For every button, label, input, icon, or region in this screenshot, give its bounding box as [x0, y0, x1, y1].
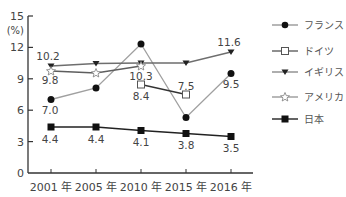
legend-label: フランス — [304, 20, 344, 31]
x-tick-2015: 2015 年 — [165, 180, 208, 194]
label-uk-2016: 11.6 — [217, 36, 241, 48]
filled-square-icon — [282, 116, 289, 123]
legend-item-japan: 日本 — [272, 113, 324, 125]
filled-circle-icon — [48, 96, 55, 103]
legend-item-france: フランス — [272, 20, 344, 31]
label-japan-2010: 4.1 — [133, 136, 150, 148]
y-tick-0: 0 — [17, 167, 24, 180]
label-france-2001: 7.0 — [42, 104, 59, 116]
legend-label: ドイツ — [304, 46, 334, 57]
filled-square-icon — [183, 130, 190, 137]
y-tick-15: 15 — [10, 10, 24, 23]
legend-item-usa: アメリカ — [272, 92, 344, 103]
x-tick-2016: 2016 年 — [210, 180, 253, 194]
x-axis: 2001 年 2005 年 2010 年 2015 年 2016 年 — [28, 169, 253, 194]
filled-square-icon — [93, 124, 100, 131]
filled-circle-icon — [93, 85, 100, 92]
filled-square-icon — [48, 124, 55, 131]
label-germany-2015: 7.5 — [178, 80, 195, 92]
legend-label: アメリカ — [304, 92, 344, 103]
label-japan-2001: 4.4 — [42, 133, 59, 145]
filled-square-icon — [228, 133, 235, 140]
chart-svg: 15 (%) 12 9 6 3 0 2001 年 2005 年 2010 年 2… — [0, 0, 346, 197]
filled-square-icon — [138, 127, 145, 134]
open-square-icon — [138, 81, 145, 88]
star-icon — [92, 69, 101, 78]
open-square-icon — [282, 48, 289, 55]
open-square-icon — [183, 91, 190, 98]
label-japan-2015: 3.8 — [178, 139, 195, 151]
legend-item-germany: ドイツ — [272, 46, 334, 57]
y-tick-9: 9 — [17, 73, 24, 86]
legend-label: イギリス — [304, 67, 344, 78]
y-unit: (%) — [7, 25, 24, 36]
label-germany-2010: 8.4 — [133, 90, 150, 102]
x-tick-2005: 2005 年 — [75, 180, 118, 194]
label-usa-2010: 10.3 — [129, 70, 152, 82]
label-usa-2001: 9.8 — [42, 74, 59, 86]
legend: フランス ドイツ イギリス アメリカ 日本 — [272, 20, 344, 125]
y-tick-6: 6 — [17, 104, 24, 117]
filled-circle-icon — [183, 114, 190, 121]
legend-label: 日本 — [304, 113, 324, 125]
label-japan-2005: 4.4 — [88, 133, 105, 145]
y-tick-3: 3 — [17, 136, 24, 149]
label-japan-2016: 3.5 — [223, 142, 240, 154]
x-tick-2001: 2001 年 — [30, 180, 73, 194]
label-france-2016: 9.5 — [223, 78, 240, 90]
filled-circle-icon — [282, 22, 289, 29]
y-tick-12: 12 — [10, 41, 24, 54]
x-tick-2010: 2010 年 — [120, 180, 163, 194]
star-icon — [281, 93, 290, 102]
label-uk-2001: 10.2 — [36, 50, 59, 62]
line-chart: 15 (%) 12 9 6 3 0 2001 年 2005 年 2010 年 2… — [0, 0, 346, 197]
y-axis: 15 (%) 12 9 6 3 0 — [7, 10, 33, 180]
filled-circle-icon — [228, 70, 235, 77]
legend-item-uk: イギリス — [272, 67, 344, 78]
filled-circle-icon — [138, 41, 145, 48]
